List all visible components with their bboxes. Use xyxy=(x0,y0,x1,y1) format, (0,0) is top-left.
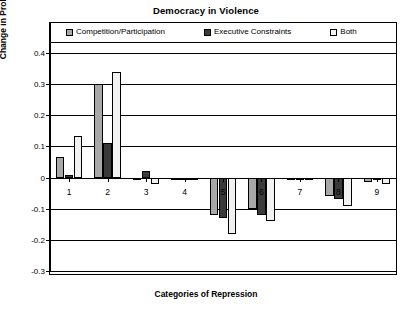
legend-swatch-icon xyxy=(330,29,337,36)
x-axis-label: 5 xyxy=(221,187,226,197)
x-axis-label: 9 xyxy=(374,187,379,197)
y-axis-tick-label: 0.1 xyxy=(34,142,45,151)
x-axis-label: 2 xyxy=(105,187,110,197)
bar xyxy=(325,178,334,197)
chart-figure: Democracy in Violence Competition/Partic… xyxy=(0,0,412,312)
x-axis-label: 4 xyxy=(182,187,187,197)
bar xyxy=(74,136,83,178)
x-axis-tick xyxy=(69,178,70,182)
x-axis-label: 3 xyxy=(144,187,149,197)
bar xyxy=(94,84,103,177)
x-axis-tick xyxy=(300,178,301,182)
bar xyxy=(219,178,228,218)
y-axis-tick xyxy=(46,115,50,116)
gridline xyxy=(50,271,396,272)
bar xyxy=(151,178,160,184)
legend-swatch-icon xyxy=(204,29,211,36)
y-axis-tick xyxy=(46,84,50,85)
y-axis-tick xyxy=(46,271,50,272)
y-axis-tick-label: -0.3 xyxy=(31,267,45,276)
bar xyxy=(287,178,296,180)
x-axis-tick xyxy=(261,178,262,182)
legend-label: Executive Constraints xyxy=(214,28,291,36)
y-axis-tick-label: 0.4 xyxy=(34,49,45,58)
y-axis-tick-label: 0.3 xyxy=(34,80,45,89)
x-axis-tick xyxy=(146,178,147,182)
bar xyxy=(210,178,219,215)
bar xyxy=(171,178,180,180)
legend-entry-competition-participation: Competition/Participation xyxy=(66,28,165,36)
bar xyxy=(112,72,121,178)
x-axis-label: 7 xyxy=(298,187,303,197)
legend-label: Both xyxy=(340,28,356,36)
bar xyxy=(189,178,198,180)
gridline xyxy=(50,53,396,54)
y-axis-tick xyxy=(46,146,50,147)
bar xyxy=(382,178,391,184)
legend-entry-both: Both xyxy=(330,28,356,36)
y-axis-title: Change in Probability of Repression xyxy=(0,0,8,76)
x-axis-tick xyxy=(108,178,109,182)
y-axis-tick-label: -0.1 xyxy=(31,204,45,213)
bar xyxy=(305,178,314,180)
bar xyxy=(364,178,373,183)
bar xyxy=(133,178,142,180)
x-axis-label: 8 xyxy=(336,187,341,197)
y-axis-tick-label: -0.2 xyxy=(31,235,45,244)
x-axis-tick xyxy=(377,178,378,182)
y-axis-tick-label: 0.2 xyxy=(34,111,45,120)
chart-legend: Competition/Participation Executive Cons… xyxy=(49,22,397,43)
x-axis-tick xyxy=(185,178,186,182)
y-axis-tick xyxy=(46,209,50,210)
y-axis-tick xyxy=(46,53,50,54)
bar xyxy=(103,143,112,177)
legend-label: Competition/Participation xyxy=(76,28,165,36)
bar xyxy=(266,178,275,222)
x-axis-tick xyxy=(338,178,339,182)
chart-title: Democracy in Violence xyxy=(0,5,412,16)
y-axis-tick xyxy=(46,240,50,241)
bar xyxy=(228,178,237,234)
plot-area: 0.40.30.20.10-0.1-0.2-0.3 123456789 xyxy=(50,53,396,271)
bar xyxy=(56,157,65,177)
x-axis-label: 1 xyxy=(67,187,72,197)
y-axis-tick-label: 0 xyxy=(41,173,45,182)
x-axis-tick xyxy=(223,178,224,182)
legend-swatch-icon xyxy=(66,29,73,36)
legend-entry-executive-constraints: Executive Constraints xyxy=(204,28,291,36)
y-axis-tick xyxy=(46,178,50,179)
x-axis-label: 6 xyxy=(259,187,264,197)
bar xyxy=(248,178,257,209)
x-axis-title: Categories of Repression xyxy=(0,289,412,299)
bar xyxy=(343,178,352,206)
gridline xyxy=(50,240,396,241)
